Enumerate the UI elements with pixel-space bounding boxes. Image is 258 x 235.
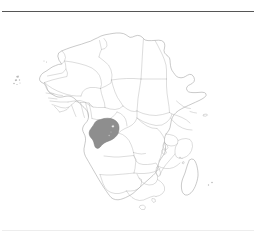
socotra-island [203,114,208,116]
border-ethiopia-somalia [171,118,193,130]
page-canvas [0,0,258,235]
border-ethiopia [172,114,190,123]
comoros-island-2 [182,158,183,159]
mauritius-island [211,182,213,184]
zanzibar-island [182,162,184,164]
cape-verde-island-6 [20,83,21,84]
canary-island-1 [44,61,45,62]
border-tanzania-south [158,163,180,169]
border-uganda [165,134,179,146]
border-sierra-leone [55,107,60,113]
canary-island-2 [46,62,47,63]
border-cote-divoire [72,105,77,117]
principe-island [110,131,111,132]
africa-mainland-outline [40,33,207,200]
border-guinea-bissau [49,98,58,99]
cape-verde-island-3 [19,79,20,80]
reunion-island [208,184,209,185]
bottom-horizontal-rule [2,230,254,231]
border-eswatini [152,199,156,203]
cape-verde-island-4 [13,83,15,85]
border-guinea [50,101,68,102]
africa-map-svg [0,14,258,230]
border-guinea-south [52,102,76,109]
top-horizontal-rule [2,11,254,12]
sao-tome-island [108,135,110,137]
cape-verde-island-5 [16,84,17,85]
cape-verde-island-1 [16,76,19,78]
border-djibouti [190,112,197,114]
border-mozambique [156,180,165,197]
comoros-island-1 [179,157,180,158]
cape-verde-island-2 [15,79,17,81]
madagascar-outline [181,159,198,195]
africa-locator-map-figure [0,14,258,230]
border-lesotho [140,205,146,210]
